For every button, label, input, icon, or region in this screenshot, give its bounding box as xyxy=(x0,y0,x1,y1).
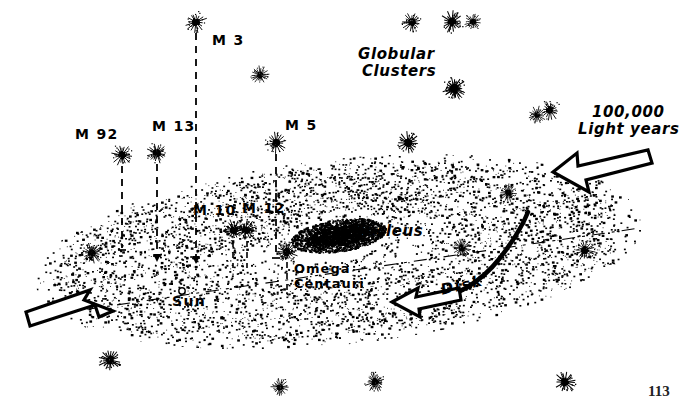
globular-cluster-icon-m-13 xyxy=(147,143,166,163)
globular-cluster-icon xyxy=(251,66,270,83)
globular-cluster-icon-m-3 xyxy=(186,11,207,33)
globular-cluster-icon xyxy=(465,14,481,29)
omega-centauri-label: Omega Centauri xyxy=(294,262,365,291)
m10-label: M 10 xyxy=(193,203,237,217)
m5-label: M 5 xyxy=(285,118,317,132)
galaxy-illustration xyxy=(0,0,693,410)
m12-label: M 12 xyxy=(242,201,286,215)
globular-cluster-icon xyxy=(576,240,596,259)
globular-cluster-icon xyxy=(402,13,422,32)
globular-cluster-icon xyxy=(398,131,418,153)
globular-clusters-label: Globular Clusters xyxy=(358,46,436,80)
globular-cluster-icon xyxy=(542,101,560,120)
m3-label: M 3 xyxy=(212,33,244,47)
scale-label: 100,000 Light years xyxy=(578,104,680,138)
m13-label: M 13 xyxy=(152,119,196,133)
globular-cluster-icon xyxy=(443,77,465,98)
globular-cluster-icon xyxy=(271,378,289,396)
galaxy-figure: Globular Clusters 100,000 Light years Nu… xyxy=(0,0,693,410)
m92-label: M 92 xyxy=(75,127,119,141)
nucleus-label: Nucleus xyxy=(352,223,423,241)
scale-arrow-lower-left xyxy=(26,290,113,326)
globular-cluster-icon xyxy=(529,106,545,124)
globular-cluster-icon xyxy=(364,372,384,392)
globular-cluster-icon-m-92 xyxy=(111,146,132,166)
globular-cluster-icon xyxy=(442,10,464,34)
sun-label: Sun xyxy=(172,294,206,308)
globular-cluster-icon xyxy=(99,351,121,371)
globular-cluster-icon xyxy=(556,372,576,391)
globular-cluster-icon-m-5 xyxy=(265,132,286,154)
page-number: 113 xyxy=(648,383,670,400)
scale-arrow-upper-right xyxy=(553,150,652,192)
